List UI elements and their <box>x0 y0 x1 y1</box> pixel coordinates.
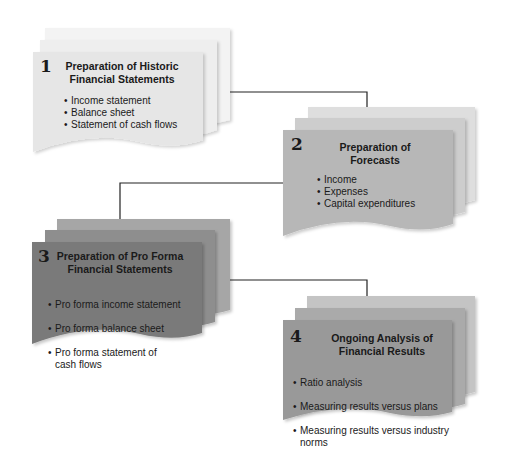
step-items-list: Ratio analysis Measuring results versus … <box>293 365 453 450</box>
list-item: Measuring results versus plans <box>293 401 453 413</box>
step-title: Ongoing Analysis of Financial Results <box>322 332 442 358</box>
list-item: Ratio analysis <box>293 377 453 389</box>
step-number: 4 <box>290 328 302 345</box>
list-item: Measuring results versus industry norms <box>293 425 453 449</box>
